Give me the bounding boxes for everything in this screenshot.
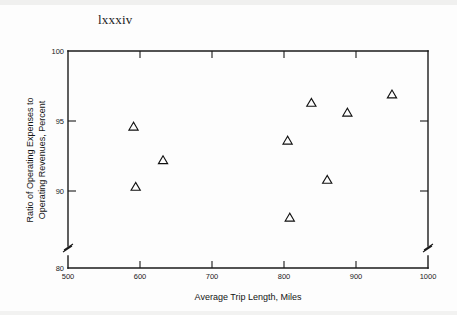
x-axis-tick-labels: 500 600 700 800 900 1000 — [62, 272, 437, 281]
y-tick-label-100: 100 — [51, 47, 64, 56]
x-tick-label-1000: 1000 — [420, 272, 437, 281]
x-tick-label-500: 500 — [62, 272, 75, 281]
data-point-marker — [158, 156, 167, 164]
data-point-marker — [129, 122, 138, 130]
data-point-marker — [343, 108, 352, 116]
scatter-chart-figure: 100 95 90 80 500 600 700 800 900 1000 Av… — [0, 0, 457, 315]
y-axis-title-line-2: Operating Revenues, Percent — [37, 100, 47, 219]
y-axis-tick-labels: 100 95 90 80 — [51, 47, 64, 273]
scanned-page: lxxxiv — [0, 0, 457, 315]
x-tick-label-800: 800 — [278, 272, 291, 281]
y-tick-label-95: 95 — [56, 117, 64, 126]
x-tick-label-700: 700 — [206, 272, 219, 281]
x-axis-ticks — [140, 51, 356, 268]
x-tick-label-900: 900 — [350, 272, 363, 281]
data-point-marker — [387, 90, 396, 98]
y-axis-title-line-1: Ratio of Operating Expenses to — [25, 97, 35, 222]
y-tick-label-90: 90 — [56, 187, 64, 196]
y-axis-ticks — [68, 121, 428, 191]
y-axis-title: Ratio of Operating Expenses to Operating… — [25, 97, 47, 222]
data-point-marker — [285, 213, 294, 221]
data-point-marker — [131, 182, 140, 190]
x-axis-title: Average Trip Length, Miles — [195, 292, 302, 302]
plot-frame — [68, 51, 428, 268]
data-point-layer — [129, 90, 397, 221]
x-tick-label-600: 600 — [134, 272, 147, 281]
data-point-marker — [307, 98, 316, 106]
data-point-marker — [283, 136, 292, 144]
data-point-marker — [323, 175, 332, 183]
